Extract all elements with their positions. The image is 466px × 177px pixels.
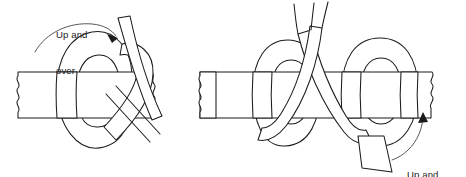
loop-right-b-front-band	[341, 72, 361, 118]
caption-up-and-over-line1: Up and	[56, 29, 88, 41]
right-panel-group	[199, 2, 433, 172]
caption-up-and-through-line1: Up and	[407, 169, 440, 177]
loop-right-b-right-band	[400, 72, 418, 118]
caption-up-and-through: Up and through	[407, 145, 440, 177]
strands-top-right	[294, 2, 328, 34]
caption-up-and-over-line2: over	[56, 65, 88, 77]
caption-up-and-over: Up and over	[56, 5, 88, 101]
knot-diagram-figure: Up and over Up and through	[0, 0, 466, 177]
loop-right-a-front-band	[252, 72, 272, 118]
belt-right-left-edge	[199, 72, 216, 118]
strap-tail-end-right	[358, 136, 392, 172]
left-panel-group	[17, 16, 162, 148]
